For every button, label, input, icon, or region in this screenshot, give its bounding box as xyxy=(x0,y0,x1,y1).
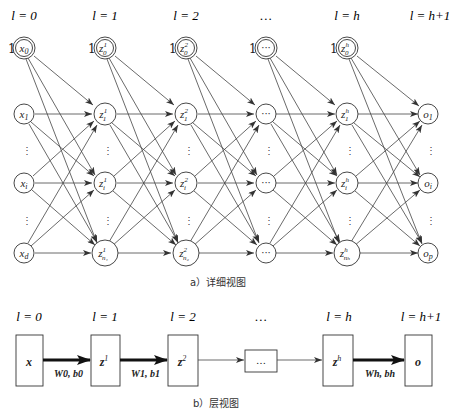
node-ellipsis-1: ··· xyxy=(256,104,276,124)
bias-node-x0: 1 x0 xyxy=(8,37,35,59)
node-z1-2: z21 xyxy=(175,103,197,125)
svg-text:⋮: ⋮ xyxy=(264,215,274,226)
node-ellipsis-i: ··· xyxy=(256,173,276,193)
node-oi: oi xyxy=(418,173,438,193)
node-znh-h: zhnₕ xyxy=(334,240,360,266)
bias-node-z0-1: 1 z10 xyxy=(88,37,116,59)
fully-connected-network-diagram: l = 0 l = 1 l = 2 … l = h l = h+1 xyxy=(0,0,468,417)
caption-detailed-view: a）详细视图 xyxy=(190,276,246,288)
node-zn1-1: z1n₁ xyxy=(92,240,118,266)
layer-labels-layer-view: l = 0 l = 1 l = 2 … l = h l = h+1 xyxy=(16,309,441,324)
svg-text:⋮: ⋮ xyxy=(103,145,113,156)
layer-view-label-ellipsis: … xyxy=(255,309,267,324)
layer-labels-detailed: l = 0 l = 1 l = 2 … l = h l = h+1 xyxy=(11,8,450,23)
svg-text:⋮: ⋮ xyxy=(184,145,194,156)
node-op: op xyxy=(418,243,438,263)
svg-text:⋮: ⋮ xyxy=(22,145,32,156)
svg-text:⋮: ⋮ xyxy=(22,215,32,226)
svg-text:···: ··· xyxy=(261,42,271,53)
layer-label-0: l = 0 xyxy=(11,8,37,23)
layer-view-label-h-plus-1: l = h+1 xyxy=(401,309,442,324)
layer-view-label-0: l = 0 xyxy=(16,309,42,324)
bias-node-z0-2: 1 z20 xyxy=(169,37,197,59)
svg-text:⋮: ⋮ xyxy=(345,145,355,156)
svg-text:x: x xyxy=(25,355,32,369)
node-xi: xi xyxy=(14,173,34,193)
svg-text:⋮: ⋮ xyxy=(426,215,436,226)
node-o1: o1 xyxy=(418,104,438,124)
weight-label-1: W1, b1 xyxy=(131,368,160,379)
node-z1-1: z11 xyxy=(94,103,116,125)
node-z1-h: zh1 xyxy=(336,103,358,125)
layer-label-1: l = 1 xyxy=(92,8,117,23)
layer-view-label-2: l = 2 xyxy=(170,309,196,324)
svg-text:⋮: ⋮ xyxy=(426,145,436,156)
svg-text:⋮: ⋮ xyxy=(184,215,194,226)
node-ellipsis-n: ··· xyxy=(256,243,276,263)
caption-layer-view: b）层视图 xyxy=(193,397,239,409)
svg-text:⋮: ⋮ xyxy=(345,215,355,226)
node-zn2-2: z2n₂ xyxy=(173,240,199,266)
svg-text:···: ··· xyxy=(261,108,271,119)
layer-view-label-1: l = 1 xyxy=(92,309,117,324)
node-x1: x1 xyxy=(14,104,34,124)
layer-view-label-h: l = h xyxy=(326,309,351,324)
svg-text:···: ··· xyxy=(261,247,271,258)
svg-text:o: o xyxy=(415,355,421,369)
bias-node-z0-h: 1 zh0 xyxy=(330,37,358,59)
node-zi-h: zhi xyxy=(336,172,358,194)
layer-label-2: l = 2 xyxy=(173,8,199,23)
bias-nodes: 1 x0 1 z10 1 z20 1 ··· 1 zh0 xyxy=(8,37,358,59)
layer-label-ellipsis: … xyxy=(260,8,272,23)
svg-text:⋮: ⋮ xyxy=(264,145,274,156)
layer-label-h: l = h xyxy=(334,8,359,23)
node-zi-1: z1i xyxy=(94,172,116,194)
weight-label-h: Wh, bh xyxy=(365,368,395,379)
layer-label-h-plus-1: l = h+1 xyxy=(410,8,451,23)
edges xyxy=(26,56,422,253)
svg-text:…: … xyxy=(256,355,266,366)
weight-label-0: W0, b0 xyxy=(54,368,83,379)
node-xd: xd xyxy=(14,243,34,263)
bias-node-ellipsis: 1 ··· xyxy=(249,37,277,59)
svg-text:···: ··· xyxy=(261,177,271,188)
node-zi-2: z2i xyxy=(175,172,197,194)
svg-text:⋮: ⋮ xyxy=(103,215,113,226)
